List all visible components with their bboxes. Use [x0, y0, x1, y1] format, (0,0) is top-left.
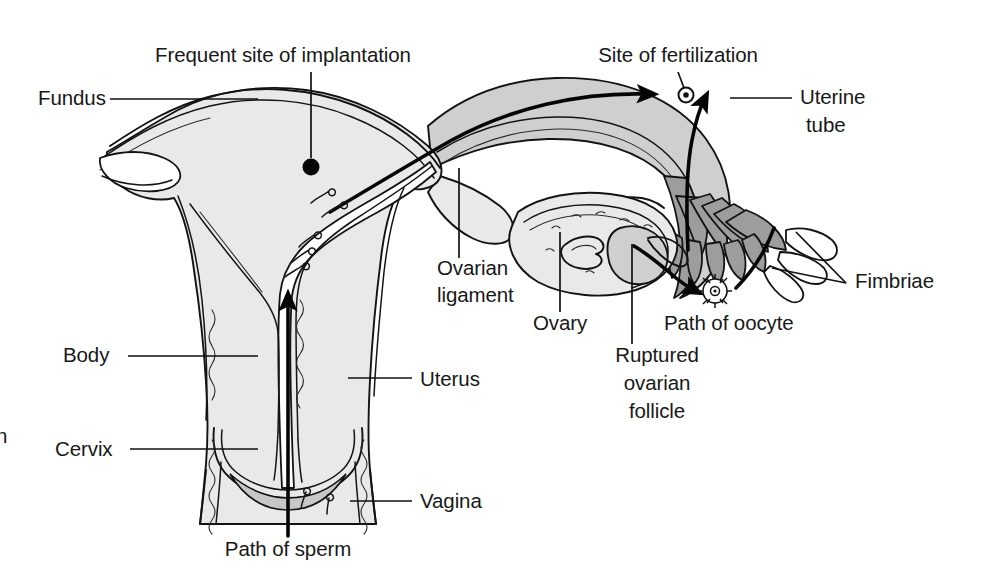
label-uterine-tube-line1: Uterine: [800, 85, 865, 108]
label-path-of-sperm: Path of sperm: [225, 537, 351, 560]
oocyte-marker: [698, 274, 732, 308]
label-ovarian-ligament-line2: ligament: [437, 283, 514, 306]
label-ruptured-follicle-line2: ovarian: [624, 371, 691, 394]
label-body: Body: [63, 343, 110, 366]
implantation-site-dot: [303, 159, 320, 176]
label-fundus: Fundus: [38, 86, 106, 109]
label-ovary: Ovary: [533, 311, 588, 334]
label-ruptured-follicle-line3: follicle: [629, 399, 685, 422]
label-uterus: Uterus: [420, 367, 480, 390]
label-site-of-fertilization: Site of fertilization: [598, 43, 758, 66]
reproductive-tract-diagram: Frequent site of implantation Fundus Sit…: [0, 0, 985, 573]
label-ovarian-ligament-line1: Ovarian: [437, 256, 508, 279]
label-uterine-tube-line2: tube: [806, 113, 846, 136]
label-frequent-site-of-implantation: Frequent site of implantation: [155, 43, 411, 66]
anatomy-figure: Frequent site of implantation Fundus Sit…: [0, 0, 985, 573]
label-cervix: Cervix: [55, 437, 113, 460]
label-vagina: Vagina: [420, 489, 482, 512]
label-ruptured-follicle-line1: Ruptured: [615, 343, 699, 366]
fertilization-ovum-marker: [679, 88, 694, 103]
label-clipped-edge-fragment: n: [0, 424, 7, 447]
label-path-of-oocyte: Path of oocyte: [664, 311, 794, 334]
label-fimbriae: Fimbriae: [855, 269, 934, 292]
